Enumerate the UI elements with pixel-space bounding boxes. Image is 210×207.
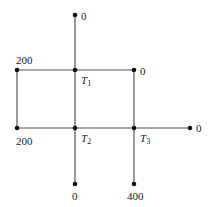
grid-lines <box>17 15 190 184</box>
label-t1-right: 0 <box>140 65 146 77</box>
label-t3-bottom: 400 <box>127 190 144 202</box>
label-t3-right: 0 <box>196 122 202 134</box>
nodes <box>15 13 193 187</box>
node-t3-bottom <box>132 182 137 187</box>
label-t2: T2 <box>81 132 91 146</box>
node-t1 <box>73 68 78 73</box>
node-t2-left <box>15 126 20 131</box>
node-top <box>73 13 78 18</box>
node-t1-right <box>132 68 137 73</box>
node-t2 <box>73 126 78 131</box>
label-t2-left: 200 <box>16 135 33 147</box>
temperature-grid-diagram: 0 0 200 200 0 0 400 T1 T2 T3 <box>0 0 210 207</box>
label-t2-bottom: 0 <box>72 190 78 202</box>
node-t1-left <box>15 68 20 73</box>
node-t3 <box>132 126 137 131</box>
label-top: 0 <box>81 10 87 22</box>
label-t3: T3 <box>140 132 150 146</box>
node-t3-right <box>188 126 193 131</box>
label-t1: T1 <box>81 74 91 88</box>
label-t1-left: 200 <box>16 54 33 66</box>
node-t2-bottom <box>73 182 78 187</box>
